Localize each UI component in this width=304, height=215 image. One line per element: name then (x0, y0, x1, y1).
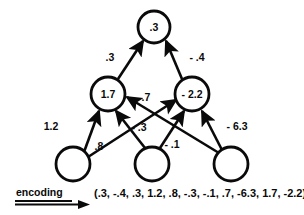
node-input-1[interactable] (56, 147, 90, 181)
node-output-1[interactable]: .3 (138, 11, 170, 43)
edge-weight-h2-output: - .4 (189, 51, 204, 63)
node-output-1-label: .3 (150, 21, 159, 33)
edge-weight-i3-h2: - 6.3 (226, 120, 247, 132)
neural-network-figure: .3 1.7 - 2.2 .3 - .4 1.2 - .3 .7 .8 - .1 (0, 0, 304, 215)
network-diagram-canvas: .3 1.7 - 2.2 .3 - .4 1.2 - .3 .7 .8 - .1 (0, 0, 304, 215)
edge-h2-to-output (166, 41, 182, 79)
node-input-3[interactable] (214, 147, 248, 181)
edge-weight-h1-output: .3 (106, 51, 115, 63)
encoding-vector: (.3, -.4, .3, 1.2, .8, -.3, -.1, .7, -6.… (94, 187, 304, 199)
node-hidden-1[interactable]: 1.7 (91, 77, 125, 111)
node-input-2[interactable] (135, 147, 169, 181)
edge-weight-i1-h2: .8 (95, 140, 104, 152)
edge-h1-to-output (118, 41, 143, 79)
node-hidden-2[interactable]: - 2.2 (175, 77, 209, 111)
node-hidden-1-label: 1.7 (101, 88, 116, 100)
edge-weight-i1-h1: 1.2 (44, 120, 59, 132)
node-hidden-2-label: - 2.2 (181, 88, 202, 100)
encoding-label: encoding (16, 186, 63, 198)
edge-weight-i3-h1: .7 (142, 91, 151, 103)
edge-weight-i2-h1: - .3 (131, 121, 146, 133)
edge-weight-i2-h2: - .1 (164, 138, 179, 150)
